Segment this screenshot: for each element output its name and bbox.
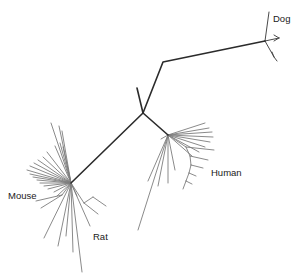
backbone-center-to-dog <box>143 41 265 113</box>
rat-branch <box>84 197 93 203</box>
human-branch <box>148 135 168 181</box>
rat-branch-group <box>44 183 106 272</box>
tip-label-dog: Dog <box>273 13 290 24</box>
human-branch <box>189 165 191 173</box>
tip-label-human: Human <box>211 167 242 178</box>
backbone-center-to-rodent <box>71 113 143 183</box>
mouse-branch <box>36 195 62 201</box>
human-branch <box>190 156 191 165</box>
rat-branch <box>93 197 106 206</box>
rat-branch <box>58 183 71 246</box>
dog-branch <box>274 57 277 61</box>
dog-branch <box>265 12 269 41</box>
tree-diagram: Dog Human Mouse Rat <box>0 0 299 276</box>
human-branch <box>186 173 189 181</box>
human-branch-group <box>138 123 214 230</box>
dog-branch <box>274 35 279 38</box>
human-branch <box>186 181 192 184</box>
human-branch <box>183 181 186 189</box>
human-branch <box>190 156 208 160</box>
rat-branch <box>84 203 98 214</box>
mouse-branch <box>41 195 62 208</box>
human-branch <box>186 147 214 150</box>
tip-label-rat: Rat <box>93 231 108 242</box>
human-branch <box>138 135 168 230</box>
human-branch <box>191 165 203 168</box>
phylogenetic-tree-figure: Dog Human Mouse Rat <box>0 0 299 276</box>
human-branch <box>189 173 196 176</box>
tip-label-mouse: Mouse <box>8 190 37 201</box>
backbone-center-to-human <box>143 113 168 135</box>
backbone-upper-fork <box>137 88 143 113</box>
